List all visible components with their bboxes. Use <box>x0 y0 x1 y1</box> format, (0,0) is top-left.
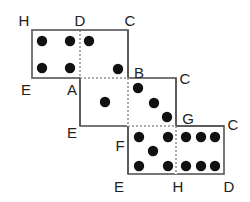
pip-dot <box>196 161 206 171</box>
pip-dot <box>133 83 143 93</box>
pip-dot <box>163 161 173 171</box>
vertex-label-b: B <box>134 65 144 80</box>
pip-dot <box>196 132 206 142</box>
pip-dot <box>148 146 158 156</box>
domino-shapes <box>32 30 224 174</box>
pip-dot <box>113 64 123 74</box>
vertex-label-c: C <box>125 13 136 28</box>
pip-dot <box>149 98 159 108</box>
pip-dot <box>84 36 94 46</box>
vertex-label-d: D <box>75 13 86 28</box>
pip-dot <box>210 132 220 142</box>
pip-dot <box>65 36 75 46</box>
pip-dot <box>181 161 191 171</box>
pip-dot <box>100 97 110 107</box>
pip-dot <box>37 63 47 73</box>
vertex-label-h: H <box>173 179 184 194</box>
vertex-label-e: E <box>67 125 77 140</box>
pip-dot <box>134 161 144 171</box>
vertex-label-c: C <box>180 71 191 86</box>
vertex-label-g: G <box>182 111 194 126</box>
pip-dot <box>163 132 173 142</box>
pip-dot <box>37 36 47 46</box>
vertex-label-h: H <box>19 13 30 28</box>
pip-dot <box>162 112 172 122</box>
pip-dot <box>210 161 220 171</box>
domino-diagram <box>0 0 250 202</box>
vertex-label-e: E <box>114 179 124 194</box>
vertex-label-d: D <box>224 179 235 194</box>
pip-dot <box>134 132 144 142</box>
vertex-label-e: E <box>21 82 31 97</box>
vertex-label-a: A <box>67 82 77 97</box>
pip-dot <box>181 132 191 142</box>
vertex-label-f: F <box>115 138 124 153</box>
pip-dot <box>65 63 75 73</box>
vertex-label-c: C <box>228 117 239 132</box>
